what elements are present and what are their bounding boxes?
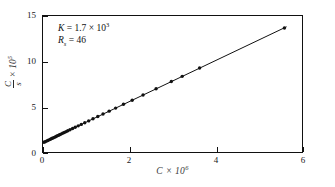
x-axis-times: × bbox=[166, 166, 173, 176]
data-point bbox=[141, 93, 144, 96]
figure: 15 10 5 0 0 2 4 6 K = 1.7 × 103 Rs bbox=[0, 0, 335, 187]
data-point bbox=[181, 75, 184, 78]
x-axis-exponent: 6 bbox=[185, 164, 189, 171]
x-axis-title: C × 106 bbox=[42, 166, 303, 176]
annotation-k-value: 1.7 bbox=[74, 23, 86, 33]
y-axis-exponent: 5 bbox=[6, 56, 13, 59]
y-axis-denominator: s bbox=[13, 80, 23, 88]
y-axis-fraction: C s bbox=[4, 80, 23, 88]
y-axis-base: 10 bbox=[8, 59, 18, 69]
data-point bbox=[96, 115, 99, 118]
x-tick-label: 2 bbox=[117, 156, 141, 165]
y-axis-numerator: C bbox=[4, 80, 13, 88]
data-point bbox=[77, 124, 80, 127]
data-point bbox=[107, 109, 110, 112]
annotation-block: K = 1.7 × 103 Rs = 46 bbox=[58, 22, 109, 46]
y-axis-title: C s × 105 bbox=[4, 42, 24, 102]
x-tick-label: 6 bbox=[291, 156, 315, 165]
data-point bbox=[73, 126, 76, 129]
x-tick-label: 4 bbox=[204, 156, 228, 165]
data-point bbox=[114, 106, 117, 109]
data-point bbox=[101, 112, 104, 115]
x-axis-base: 10 bbox=[175, 166, 185, 176]
annotation-r-value: 46 bbox=[76, 35, 86, 45]
data-point bbox=[122, 103, 125, 106]
y-tick-label: 5 bbox=[14, 103, 36, 112]
data-point bbox=[130, 98, 133, 101]
y-tick-label: 15 bbox=[14, 11, 36, 20]
data-point bbox=[91, 117, 94, 120]
data-point bbox=[80, 123, 83, 126]
annotation-k-base: 10 bbox=[96, 23, 106, 33]
data-point bbox=[170, 80, 173, 83]
annotation-line-r: Rs = 46 bbox=[58, 34, 109, 46]
y-axis-times: × bbox=[8, 71, 18, 77]
x-tick-label: 0 bbox=[30, 156, 54, 165]
data-point bbox=[83, 121, 86, 124]
data-point bbox=[154, 87, 157, 90]
annotation-k-exponent: 3 bbox=[106, 21, 109, 28]
data-point bbox=[283, 26, 286, 29]
x-axis-symbol: C bbox=[156, 166, 163, 176]
annotation-line-k: K = 1.7 × 103 bbox=[58, 22, 109, 34]
data-point bbox=[87, 119, 90, 122]
data-point bbox=[198, 66, 201, 69]
